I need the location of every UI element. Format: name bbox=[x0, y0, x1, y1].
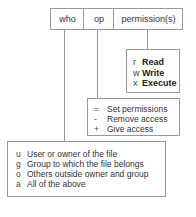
header-cell-who: who bbox=[51, 9, 84, 29]
legend-label: Give access bbox=[107, 124, 153, 134]
legend-key: = bbox=[94, 104, 107, 114]
legend-row: oOthers outside owner and group bbox=[16, 169, 165, 179]
legend-row: aAll of the above bbox=[16, 179, 165, 189]
legend-key: w bbox=[133, 68, 142, 79]
permissions-legend-box: rRead wWrite xExecute bbox=[126, 49, 180, 93]
legend-key: o bbox=[16, 169, 27, 179]
legend-row: xExecute bbox=[133, 78, 179, 89]
legend-key: g bbox=[16, 159, 27, 169]
legend-label: Write bbox=[142, 68, 164, 79]
op-connector-line bbox=[97, 29, 98, 99]
legend-row: wWrite bbox=[133, 68, 179, 79]
who-legend-box: uUser or owner of the file gGroup to whi… bbox=[7, 141, 166, 197]
legend-label: All of the above bbox=[27, 179, 86, 189]
operator-legend-box: =Set permissions -Remove access +Give ac… bbox=[87, 98, 180, 136]
legend-label: Group to which the file belongs bbox=[27, 159, 144, 169]
legend-row: -Remove access bbox=[94, 114, 179, 124]
command-syntax-header: who op permission(s) bbox=[50, 8, 183, 30]
legend-key: x bbox=[133, 78, 142, 89]
legend-row: gGroup to which the file belongs bbox=[16, 159, 165, 169]
legend-row: rRead bbox=[133, 57, 179, 68]
legend-row: =Set permissions bbox=[94, 104, 179, 114]
legend-label: Set permissions bbox=[107, 104, 167, 114]
header-cell-permissions: permission(s) bbox=[114, 9, 183, 29]
permission-connector-line bbox=[147, 29, 148, 50]
who-connector-line bbox=[64, 29, 65, 142]
legend-label: Others outside owner and group bbox=[27, 169, 148, 179]
legend-row: uUser or owner of the file bbox=[16, 149, 165, 159]
legend-label: Read bbox=[142, 57, 164, 68]
legend-label: Remove access bbox=[107, 114, 167, 124]
legend-label: User or owner of the file bbox=[27, 149, 117, 159]
legend-key: - bbox=[94, 114, 107, 124]
legend-key: r bbox=[133, 57, 142, 68]
legend-key: a bbox=[16, 179, 27, 189]
legend-label: Execute bbox=[142, 78, 177, 89]
legend-row: +Give access bbox=[94, 124, 179, 134]
legend-key: u bbox=[16, 149, 27, 159]
header-cell-op: op bbox=[84, 9, 114, 29]
legend-key: + bbox=[94, 124, 107, 134]
